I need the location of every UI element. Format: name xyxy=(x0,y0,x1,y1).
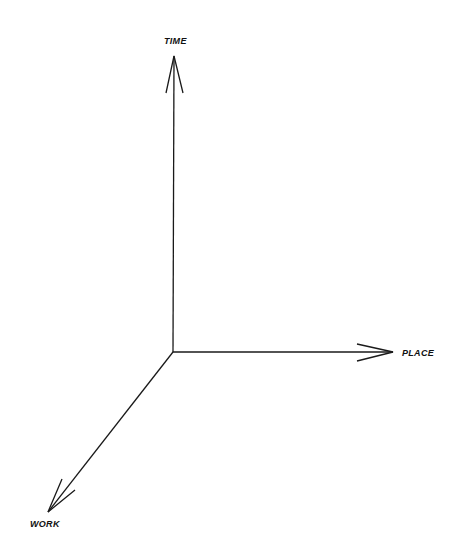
place-axis-label: PLACE xyxy=(402,348,435,358)
work-axis-label: WORK xyxy=(30,519,61,529)
time-axis-line xyxy=(173,56,174,352)
axes-diagram: TIME PLACE WORK xyxy=(0,0,464,560)
axes-group xyxy=(48,56,393,512)
time-axis-label: TIME xyxy=(164,36,187,46)
work-axis-line xyxy=(48,352,173,512)
